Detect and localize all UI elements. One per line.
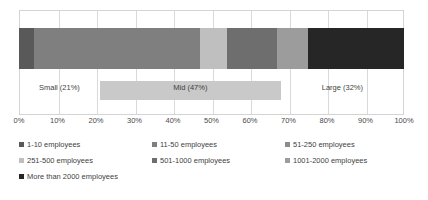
x-axis-tick-label: 10% <box>50 116 65 125</box>
legend-row: 1-10 employees11-50 employees51-250 empl… <box>19 136 419 152</box>
legend-label: 1001-2000 employees <box>293 156 367 165</box>
legend-label: 251-500 employees <box>27 156 93 165</box>
x-axis-tick-label: 70% <box>281 116 296 125</box>
legend-item[interactable]: 51-250 employees <box>285 136 418 152</box>
group-label: Large (32%) <box>281 78 404 97</box>
legend-swatch-icon <box>19 142 24 147</box>
x-axis-tick-label: 50% <box>204 116 219 125</box>
x-axis-tick-label: 30% <box>127 116 142 125</box>
legend-row: 251-500 employees501-1000 employees1001-… <box>19 152 419 168</box>
bar-segment <box>227 28 277 69</box>
legend-item[interactable]: More than 2000 employees <box>19 168 152 184</box>
x-axis-tick-label: 0% <box>14 116 25 125</box>
bar-segment <box>308 28 404 69</box>
x-axis-tick-label: 40% <box>165 116 180 125</box>
legend-swatch-icon <box>152 158 157 163</box>
bar-segment <box>19 28 34 69</box>
legend-row: More than 2000 employees <box>19 168 419 184</box>
legend-item[interactable]: 1-10 employees <box>19 136 152 152</box>
x-axis-tick-label: 90% <box>358 116 373 125</box>
legend-label: 51-250 employees <box>293 140 355 149</box>
legend-item[interactable]: 501-1000 employees <box>152 152 285 168</box>
x-axis-tick-label: 60% <box>242 116 257 125</box>
legend-swatch-icon <box>19 174 24 179</box>
bar-segment <box>277 28 308 69</box>
x-axis-tick-label: 100% <box>394 116 413 125</box>
group-label: Mid (47%) <box>100 78 281 97</box>
group-label: Small (21%) <box>19 78 100 97</box>
legend-label: 1-10 employees <box>27 140 80 149</box>
legend-swatch-icon <box>285 142 290 147</box>
bar-segment <box>200 28 227 69</box>
legend-label: More than 2000 employees <box>27 172 118 181</box>
legend-swatch-icon <box>285 158 290 163</box>
legend-swatch-icon <box>19 158 24 163</box>
chart-legend: 1-10 employees11-50 employees51-250 empl… <box>19 136 419 184</box>
stacked-bar-series <box>19 28 404 69</box>
x-axis-tick-label: 80% <box>319 116 334 125</box>
legend-label: 501-1000 employees <box>160 156 230 165</box>
x-axis: 0%10%20%30%40%50%60%70%80%90%100% <box>19 116 404 130</box>
legend-item[interactable]: 11-50 employees <box>152 136 285 152</box>
legend-swatch-icon <box>152 142 157 147</box>
legend-label: 11-50 employees <box>160 140 217 149</box>
x-axis-tick-label: 20% <box>88 116 103 125</box>
stacked-bar-chart: Small (21%)Mid (47%)Large (32%) 0%10%20%… <box>0 0 428 200</box>
bar-segment <box>34 28 200 69</box>
legend-item[interactable]: 1001-2000 employees <box>285 152 418 168</box>
legend-item[interactable]: 251-500 employees <box>19 152 152 168</box>
